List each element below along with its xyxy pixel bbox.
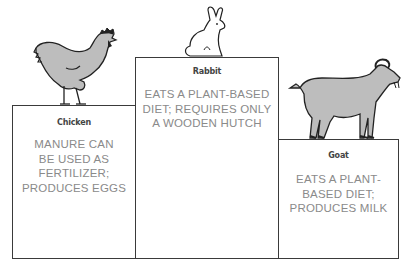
chicken-card: Chicken MANURE CAN BE USED AS FERTILIZER…: [12, 105, 136, 259]
chicken-description: MANURE CAN BE USED AS FERTILIZER; PRODUC…: [13, 137, 135, 195]
rabbit-label: Rabbit: [136, 67, 278, 76]
desc-line: A WOODEN HUTCH: [140, 116, 274, 131]
goat-label: Goat: [279, 151, 398, 160]
desc-line: MANURE CAN: [13, 137, 135, 152]
desc-line: BE USED AS: [13, 152, 135, 167]
goat-description: EATS A PLANT- BASED DIET; PRODUCES MILK: [279, 172, 398, 216]
desc-line: DIET; REQUIRES ONLY: [140, 102, 274, 117]
rabbit-icon: [180, 6, 230, 58]
desc-line: FERTILIZER;: [13, 166, 135, 181]
desc-line: BASED DIET;: [279, 187, 398, 202]
chicken-label: Chicken: [13, 118, 135, 127]
desc-line: PRODUCES MILK: [279, 201, 398, 216]
desc-line: EATS A PLANT-BASED: [140, 87, 274, 102]
desc-line: PRODUCES EGGS: [13, 181, 135, 196]
rabbit-description: EATS A PLANT-BASED DIET; REQUIRES ONLY A…: [136, 87, 278, 131]
goat-icon: [290, 58, 405, 140]
goat-card: Goat EATS A PLANT- BASED DIET; PRODUCES …: [278, 139, 399, 259]
chicken-icon: [30, 24, 120, 108]
rabbit-card: Rabbit EATS A PLANT-BASED DIET; REQUIRES…: [135, 57, 279, 259]
desc-line: EATS A PLANT-: [279, 172, 398, 187]
